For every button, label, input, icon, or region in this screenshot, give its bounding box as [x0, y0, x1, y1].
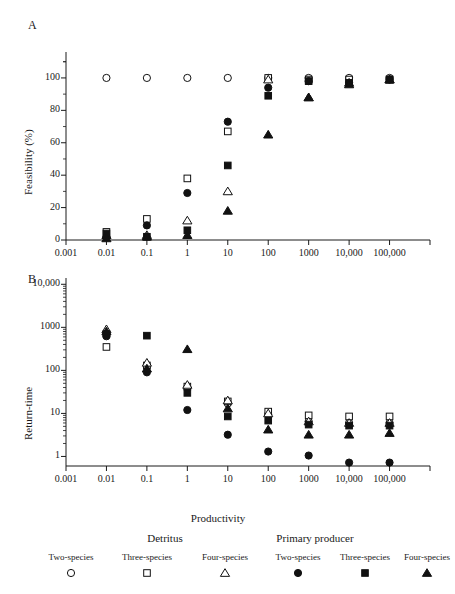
legend-group-primary-producer: Primary producer: [245, 532, 385, 544]
data-point-filled-circle: [224, 431, 231, 438]
data-point-filled-triangle: [304, 430, 313, 438]
data-point-filled-circle: [305, 452, 312, 459]
legend-label-filled-circle: Two-species: [263, 552, 333, 562]
legend-marker-open-triangle: [217, 566, 233, 580]
panel-b-y-tick-label: 1000: [2, 320, 60, 331]
data-point-filled-triangle: [264, 130, 273, 138]
data-point-open-square: [103, 344, 110, 351]
legend-label-filled-triangle: Four-species: [392, 552, 455, 562]
legend-marker-filled-square: [357, 566, 373, 580]
panel-b-x-tick-label: 100,000: [360, 473, 420, 484]
data-point-open-circle: [103, 74, 110, 81]
legend-label-open-triangle: Four-species: [190, 552, 260, 562]
data-point-filled-circle: [184, 189, 191, 196]
data-point-open-circle: [224, 74, 231, 81]
legend-label-filled-square: Three-species: [330, 552, 400, 562]
data-point-filled-circle: [224, 118, 231, 125]
data-point-open-triangle: [223, 187, 232, 195]
data-point-filled-square: [305, 421, 312, 428]
data-point-open-circle: [184, 74, 191, 81]
legend-marker-filled-circle: [290, 566, 306, 580]
data-point-filled-square: [305, 78, 312, 85]
panel-a-y-tick-label: 20: [10, 201, 60, 212]
data-point-filled-square: [224, 413, 231, 420]
data-point-filled-triangle: [422, 569, 431, 577]
data-point-filled-circle: [386, 459, 393, 466]
data-point-filled-circle: [346, 459, 353, 466]
panel-a-y-tick-label: 80: [10, 103, 60, 114]
panel-a-y-tick-label: 60: [10, 136, 60, 147]
legend-marker-open-square: [139, 566, 155, 580]
panel-a-x-tick-label: 100,000: [360, 247, 420, 258]
data-point-open-square: [144, 570, 151, 577]
data-point-open-square: [224, 128, 231, 135]
data-point-filled-triangle: [345, 430, 354, 438]
data-point-filled-circle: [265, 84, 272, 91]
data-point-filled-triangle: [223, 207, 232, 215]
data-point-filled-circle: [265, 448, 272, 455]
legend-marker-filled-triangle: [419, 566, 435, 580]
data-point-filled-triangle: [304, 93, 313, 101]
data-point-filled-square: [184, 390, 191, 397]
panel-a-y-tick-label: 40: [10, 168, 60, 179]
data-point-filled-square: [362, 570, 369, 577]
data-point-filled-circle: [143, 222, 150, 229]
data-point-open-square: [184, 175, 191, 182]
panel-b-plot: [0, 268, 436, 528]
data-point-filled-square: [144, 332, 151, 339]
data-point-open-square: [144, 216, 151, 223]
panel-a-plot: [0, 0, 436, 250]
data-point-filled-square: [265, 92, 272, 99]
data-point-open-triangle: [220, 569, 229, 577]
panel-a-y-tick-label: 100: [10, 71, 60, 82]
data-point-filled-triangle: [264, 425, 273, 433]
panel-b-y-tick-label: 1: [2, 449, 60, 460]
data-point-filled-square: [346, 422, 353, 429]
legend-marker-open-circle: [63, 566, 79, 580]
data-point-filled-square: [265, 417, 272, 424]
data-point-filled-triangle: [183, 345, 192, 353]
panel-a-y-tick-label: 0: [10, 233, 60, 244]
panel-b-y-tick-label: 100: [2, 363, 60, 374]
data-point-open-circle: [143, 74, 150, 81]
legend-group-detritus: Detritus: [105, 532, 225, 544]
x-axis-label: Productivity: [0, 512, 436, 524]
data-point-filled-square: [224, 162, 231, 169]
data-point-filled-circle: [294, 569, 301, 576]
data-point-filled-triangle: [385, 429, 394, 437]
data-point-open-triangle: [183, 216, 192, 224]
panel-b-y-tick-label: 10: [2, 406, 60, 417]
panel-b-y-tick-label: 10,000: [2, 277, 60, 288]
data-point-open-circle: [67, 569, 74, 576]
legend-label-open-square: Three-species: [112, 552, 182, 562]
data-point-filled-circle: [184, 406, 191, 413]
legend-label-open-circle: Two-species: [36, 552, 106, 562]
